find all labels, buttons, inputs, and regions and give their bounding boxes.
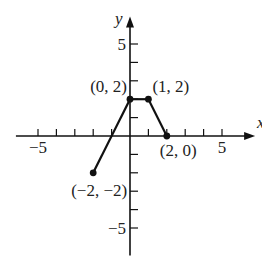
point-label: (0, 2) [90,77,127,96]
x-tick-label: 5 [218,138,227,157]
point-label: (−2, −2) [71,181,127,200]
x-tick-label: −5 [29,138,47,157]
x-axis-arrow-icon [244,132,255,140]
graph-point [145,96,152,103]
graph-point [90,169,97,176]
y-axis-arrow-icon [126,16,134,27]
graph-point [163,133,170,140]
function-graph: xy −555−5 (−2, −2)(0, 2)(1, 2)(2, 0) [0,0,262,260]
point-label: (1, 2) [152,77,189,96]
graph-segment [148,99,166,136]
y-tick-label: 5 [118,35,127,54]
x-axis-label: x [256,113,262,132]
y-axis-label: y [113,9,123,28]
point-label: (2, 0) [160,141,197,160]
axes: xy [16,9,262,255]
point-labels: (−2, −2)(0, 2)(1, 2)(2, 0) [71,77,196,200]
graph-point [127,96,134,103]
y-tick-label: −5 [108,219,126,238]
